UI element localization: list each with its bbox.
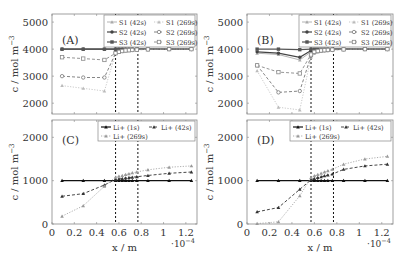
- x-multiplier: ·10−4: [367, 237, 391, 249]
- x-tick-label: 0.4: [89, 227, 105, 238]
- legend-label: Li+ (269s): [113, 133, 148, 141]
- y-tick-label: 0: [42, 219, 48, 230]
- panel-b: 2000300040005000(B)S1 (42s)S1 (269s)S2 (…: [203, 14, 393, 114]
- panel-d: 01000200000.20.40.60.811.2(D)Li+ (1s)Li+…: [203, 120, 393, 253]
- legend-label: S2 (269s): [166, 29, 198, 37]
- legend-label: Li+ (1s): [113, 124, 140, 132]
- y-tick-label: 2000: [218, 98, 243, 109]
- y-tick-label: 4000: [23, 44, 48, 55]
- y-tick-label: 2000: [23, 132, 48, 143]
- legend-label: S1 (269s): [166, 19, 198, 27]
- x-tick-label: 0.4: [284, 227, 300, 238]
- y-tick-label: 2000: [218, 132, 243, 143]
- x-tick-label: 0.8: [133, 227, 149, 238]
- legend-label: Li+ (269s): [305, 133, 340, 141]
- y-axis-label: c / mol m−3: [8, 35, 20, 92]
- x-axis-label: x / m: [112, 242, 137, 253]
- x-tick-label: 0.8: [329, 227, 345, 238]
- panel-label: (C): [62, 134, 79, 147]
- x-tick-label: 0.6: [306, 227, 322, 238]
- x-axis-label: x / m: [308, 242, 333, 253]
- legend-label: S3 (269s): [361, 39, 393, 47]
- legend-label: S2 (42s): [314, 29, 342, 37]
- y-tick-label: 5000: [218, 17, 243, 28]
- x-tick-label: 0.2: [262, 227, 278, 238]
- y-tick-label: 3000: [23, 71, 48, 82]
- legend-label: S1 (42s): [119, 19, 147, 27]
- x-tick-label: 1: [160, 227, 166, 238]
- panel-label: (B): [257, 34, 274, 47]
- y-tick-label: 1000: [23, 175, 48, 186]
- legend: S1 (42s)S1 (269s)S2 (42s)S2 (269s)S3 (42…: [299, 15, 393, 47]
- legend-label: S3 (42s): [314, 39, 342, 47]
- legend-label: S3 (42s): [119, 39, 147, 47]
- x-tick-label: 0.2: [66, 227, 82, 238]
- y-axis-label: c / mol m−3: [203, 143, 215, 200]
- y-axis-label: c / mol m−3: [8, 143, 20, 200]
- legend-label: Li+ (42s): [353, 124, 384, 132]
- x-multiplier: ·10−4: [171, 237, 195, 249]
- legend-label: S1 (269s): [361, 19, 393, 27]
- figure: 2000300040005000(A)S1 (42s)S1 (269s)S2 (…: [0, 0, 406, 257]
- y-tick-label: 3000: [218, 71, 243, 82]
- legend-label: S3 (269s): [166, 39, 198, 47]
- legend-label: S1 (42s): [314, 19, 342, 27]
- y-tick-label: 4000: [218, 44, 243, 55]
- legend-label: Li+ (1s): [305, 124, 332, 132]
- legend-label: S2 (269s): [361, 29, 393, 37]
- y-tick-label: 0: [237, 219, 243, 230]
- panel-a: 2000300040005000(A)S1 (42s)S1 (269s)S2 (…: [8, 14, 198, 114]
- x-tick-label: 0.6: [111, 227, 127, 238]
- x-tick-label: 0: [244, 227, 250, 238]
- legend-label: S2 (42s): [119, 29, 147, 37]
- y-tick-label: 2000: [23, 98, 48, 109]
- panel-c: 01000200000.20.40.60.811.2(C)Li+ (1s)Li+…: [8, 120, 197, 253]
- y-tick-label: 1000: [218, 175, 243, 186]
- legend: S1 (42s)S1 (269s)S2 (42s)S2 (269s)S3 (42…: [104, 15, 198, 47]
- panel-label: (A): [62, 34, 79, 47]
- legend-label: Li+ (42s): [161, 124, 192, 132]
- legend: Li+ (1s)Li+ (42s)Li+ (269s): [98, 121, 195, 141]
- y-axis-label: c / mol m−3: [203, 35, 215, 92]
- y-tick-label: 5000: [23, 17, 48, 28]
- panel-label: (D): [257, 134, 274, 147]
- legend: Li+ (1s)Li+ (42s)Li+ (269s): [290, 121, 391, 141]
- x-tick-label: 0: [49, 227, 55, 238]
- x-tick-label: 1: [356, 227, 362, 238]
